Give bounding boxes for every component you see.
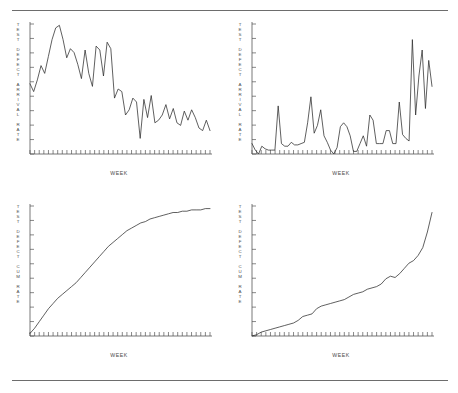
y-axis-label-bottom-right: TESTDEFECTCUMRATE [234,204,246,344]
axes-top-right [252,22,434,154]
y-axis-label-top-left: TESTDEFECTARRIVALRATE [12,22,24,162]
x-axis-label-top-right: WEEK [246,170,436,176]
figure-page: TESTDEFECTARRIVALRATE WEEK TESTDEFECTARR… [0,0,458,393]
top-horizontal-rule [12,10,448,11]
axes-bottom-right [252,204,434,336]
axes-top-left [30,22,212,154]
chart-panel-top-left: TESTDEFECTARRIVALRATE WEEK [6,18,218,193]
chart-panel-top-right: TESTDEFECTARRIVALRATE WEEK [228,18,440,193]
bottom-horizontal-rule [12,380,448,381]
series-line-top-right [252,40,432,154]
plot-bottom-right [246,200,436,350]
axes-bottom-left [30,204,212,336]
x-axis-label-bottom-left: WEEK [24,352,214,358]
plot-top-right [246,18,436,168]
x-ticks-top-right [252,150,432,154]
plot-top-left [24,18,214,168]
series-line-bottom-right [252,213,432,337]
y-ticks-bottom-right [252,206,256,336]
x-ticks-top-left [30,150,210,154]
chart-panel-bottom-right: TESTDEFECTCUMRATE WEEK [228,200,440,375]
series-line-bottom-left [30,209,210,334]
plot-bottom-left [24,200,214,350]
y-ticks-bottom-left [30,206,34,336]
y-ticks-top-right [252,24,256,154]
chart-panel-bottom-left: TESTDEFECTCUMRATE WEEK [6,200,218,375]
x-axis-label-bottom-right: WEEK [246,352,436,358]
x-ticks-bottom-right [252,332,432,336]
series-line-top-left [30,25,210,138]
x-ticks-bottom-left [30,332,210,336]
x-axis-label-top-left: WEEK [24,170,214,176]
y-axis-label-top-right: TESTDEFECTARRIVALRATE [234,22,246,162]
y-axis-label-bottom-left: TESTDEFECTCUMRATE [12,204,24,344]
y-ticks-top-left [30,24,34,154]
